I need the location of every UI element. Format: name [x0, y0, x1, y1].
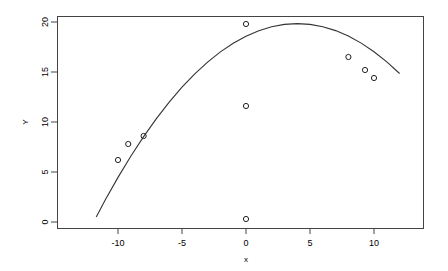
x-tick-label-5: 5	[307, 238, 312, 248]
data-point	[362, 67, 367, 72]
y-tick-label-15: 15	[40, 67, 50, 77]
x-tick-label-10: 10	[369, 238, 379, 248]
data-point	[243, 103, 248, 108]
data-point	[346, 54, 351, 59]
fitted-curve	[96, 24, 399, 217]
x-tick-label-0: 0	[243, 238, 248, 248]
x-axis-tick-labels: -10 -5 0 5 10	[111, 238, 379, 248]
y-tick-label-10: 10	[40, 117, 50, 127]
y-axis-ticks	[51, 22, 57, 222]
x-tick-label-neg5: -5	[178, 238, 186, 248]
y-tick-label-20: 20	[40, 17, 50, 27]
x-axis-title: x	[244, 255, 248, 264]
scatter-plot-with-fitted-curve: 0 5 10 15 20 Y -10 -5 0 5 10 x	[0, 0, 448, 271]
data-point	[126, 141, 131, 146]
y-axis-title: Y	[21, 119, 30, 125]
y-tick-label-0: 0	[40, 219, 50, 224]
data-point	[115, 157, 120, 162]
data-point	[243, 21, 248, 26]
data-point	[371, 75, 376, 80]
y-tick-label-5: 5	[40, 169, 50, 174]
data-point	[243, 216, 248, 221]
x-tick-label-neg10: -10	[111, 238, 124, 248]
chart-figure: 0 5 10 15 20 Y -10 -5 0 5 10 x	[0, 0, 448, 271]
y-axis-tick-labels: 0 5 10 15 20	[40, 17, 50, 225]
